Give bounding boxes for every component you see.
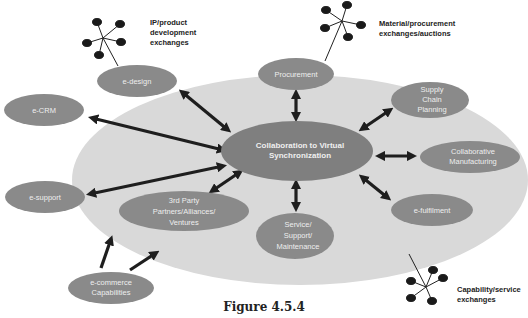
ip-exchange-label: IP/productdevelopmentexchanges bbox=[150, 18, 197, 47]
svg-text:e-design: e-design bbox=[123, 77, 152, 86]
svg-text:Capabilities: Capabilities bbox=[92, 288, 131, 297]
svg-text:Maintenance: Maintenance bbox=[277, 242, 320, 251]
figure-caption: Figure 4.5.4 bbox=[0, 300, 528, 314]
node-service-support-maintenance[interactable]: Service/ Support/ Maintenance bbox=[256, 213, 334, 259]
center-node[interactable]: Collaboration to Virtual Synchronization bbox=[221, 121, 373, 181]
node-collaborative-manufacturing[interactable]: Collaborative Manufacturing bbox=[420, 141, 520, 173]
diagram-canvas: IP/productdevelopmentexchanges Material/… bbox=[0, 0, 528, 318]
svg-text:e-fulfilment: e-fulfilment bbox=[414, 206, 452, 215]
node-supply-chain-planning[interactable]: Supply Chain Planning bbox=[391, 82, 469, 118]
svg-text:3rd Party: 3rd Party bbox=[169, 196, 200, 205]
svg-text:Ventures: Ventures bbox=[169, 218, 199, 227]
svg-text:Supply: Supply bbox=[421, 85, 444, 94]
svg-text:Partners/Alliances/: Partners/Alliances/ bbox=[153, 207, 216, 216]
svg-text:Procurement: Procurement bbox=[275, 70, 319, 79]
svg-text:e-CRM: e-CRM bbox=[32, 106, 56, 115]
svg-text:e-support: e-support bbox=[29, 193, 62, 202]
svg-text:Support/: Support/ bbox=[284, 231, 313, 240]
svg-text:Manufacturing: Manufacturing bbox=[449, 157, 497, 166]
arrow-ecommerce-to-support bbox=[101, 239, 111, 268]
svg-text:Planning: Planning bbox=[417, 105, 446, 114]
svg-text:Service/: Service/ bbox=[284, 220, 312, 229]
svg-text:Collaborative: Collaborative bbox=[451, 147, 495, 156]
node-e-support[interactable]: e-support bbox=[5, 181, 85, 213]
node-e-design[interactable]: e-design bbox=[97, 65, 177, 97]
node-third-party[interactable]: 3rd Party Partners/Alliances/ Ventures bbox=[119, 191, 249, 231]
node-e-crm[interactable]: e-CRM bbox=[4, 94, 84, 126]
svg-text:Chain: Chain bbox=[422, 95, 442, 104]
ip-exchange-star-icon bbox=[83, 19, 126, 67]
material-exchange-star-icon bbox=[321, 2, 366, 62]
center-node-line1: Collaboration to Virtual bbox=[256, 141, 344, 150]
material-exchange-label: Material/procurementexchanges/auctions bbox=[379, 19, 456, 38]
node-e-fulfilment[interactable]: e-fulfilment bbox=[391, 194, 473, 226]
svg-text:e-commerce: e-commerce bbox=[90, 278, 132, 287]
node-procurement[interactable]: Procurement bbox=[258, 58, 334, 90]
center-node-line2: Synchronization bbox=[269, 151, 331, 160]
